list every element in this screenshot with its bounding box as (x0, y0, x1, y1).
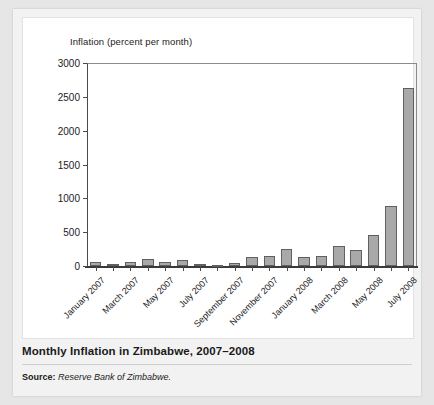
y-tick-mark (83, 266, 87, 267)
x-tick-mark (165, 266, 166, 271)
y-tick-label: 1500 (58, 159, 80, 170)
bar (264, 256, 275, 266)
bar (177, 260, 188, 266)
x-tick-mark (269, 266, 270, 271)
x-tick-mark (391, 266, 392, 271)
figure-container: Inflation (percent per month) 0500100015… (0, 0, 434, 405)
x-tick-mark (148, 266, 149, 271)
y-tick-label: 2500 (58, 91, 80, 102)
y-tick-label: 2000 (58, 125, 80, 136)
x-tick-label: May 2008 (350, 275, 385, 310)
y-tick-mark (83, 232, 87, 233)
bar (90, 262, 101, 266)
caption-divider (22, 364, 412, 365)
y-tick-label: 3000 (58, 58, 80, 69)
figure-card: Inflation (percent per month) 0500100015… (13, 9, 421, 396)
bar (350, 250, 361, 266)
figure-caption: Monthly Inflation in Zimbabwe, 2007–2008 (22, 345, 412, 357)
x-tick-mark (356, 266, 357, 271)
x-tick-mark (408, 266, 409, 271)
x-tick-mark (130, 266, 131, 271)
bar (159, 262, 170, 266)
x-tick-label: July 2007 (177, 275, 211, 309)
bar (333, 246, 344, 266)
y-tick-mark (83, 131, 87, 132)
y-tick-label: 1000 (58, 193, 80, 204)
bar (385, 206, 396, 266)
bar (107, 264, 118, 266)
bar (142, 259, 153, 266)
y-tick-mark (83, 63, 87, 64)
x-tick-mark (287, 266, 288, 271)
source-line: Source: Reserve Bank of Zimbabwe. (22, 372, 412, 382)
x-tick-label: March 2008 (309, 275, 350, 316)
x-tick-mark (339, 266, 340, 271)
source-label: Source: (22, 372, 56, 382)
caption-block: Monthly Inflation in Zimbabwe, 2007–2008… (22, 345, 412, 382)
x-tick-mark (200, 266, 201, 271)
x-tick-mark (304, 266, 305, 271)
x-tick-mark (321, 266, 322, 271)
bar (125, 262, 136, 266)
plot-area: 050010001500200025003000 January 2007Mar… (87, 63, 417, 266)
chart-panel: Inflation (percent per month) 0500100015… (22, 17, 414, 339)
bar (281, 249, 292, 266)
bar (229, 263, 240, 266)
y-tick-label: 0 (74, 261, 80, 272)
bar (403, 88, 414, 266)
bar (368, 235, 379, 266)
x-tick-mark (183, 266, 184, 271)
y-tick-mark (83, 165, 87, 166)
x-tick-mark (374, 266, 375, 271)
x-tick-label: July 2008 (385, 275, 419, 309)
x-tick-mark (113, 266, 114, 271)
x-tick-label: May 2007 (141, 275, 176, 310)
bar (194, 264, 205, 266)
y-tick-mark (83, 198, 87, 199)
x-tick-mark (252, 266, 253, 271)
y-axis-title: Inflation (percent per month) (70, 36, 192, 47)
x-tick-label: January 2007 (61, 275, 107, 321)
y-tick-mark (83, 97, 87, 98)
bar (212, 265, 223, 267)
bar (316, 256, 327, 266)
x-tick-mark (96, 266, 97, 271)
bar (246, 257, 257, 266)
bar (298, 257, 309, 266)
source-text: Reserve Bank of Zimbabwe. (58, 372, 171, 382)
y-tick-label: 500 (63, 227, 80, 238)
x-tick-mark (235, 266, 236, 271)
